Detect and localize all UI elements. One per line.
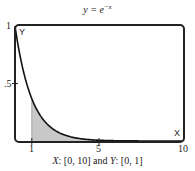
x-tick-1-label: 1 <box>29 143 34 154</box>
y-tick-1: 1 <box>6 20 11 31</box>
x-axis-label: X <box>174 128 180 138</box>
y-axis-label: Y <box>19 27 25 37</box>
chart-caption: X: [0, 10] and Y: [0, 1] <box>0 155 195 166</box>
shaded-area <box>32 99 183 141</box>
x-tick-10-label: 10 <box>178 143 188 154</box>
y-tick-half-label: .5 <box>4 78 12 89</box>
x-tick-5-label: 5 <box>96 143 101 154</box>
